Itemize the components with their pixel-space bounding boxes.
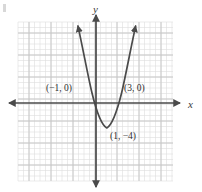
point-label-vertex: (1, −4) (110, 132, 136, 142)
x-axis-label: x (188, 99, 193, 110)
coordinate-plane (0, 0, 202, 192)
point-label-x-intercept-right: (3, 0) (124, 84, 145, 94)
y-axis-label: y (93, 4, 98, 15)
graph-figure: y x (−1, 0) (3, 0) (1, −4) (0, 0, 202, 192)
point-label-x-intercept-left: (−1, 0) (46, 84, 72, 94)
